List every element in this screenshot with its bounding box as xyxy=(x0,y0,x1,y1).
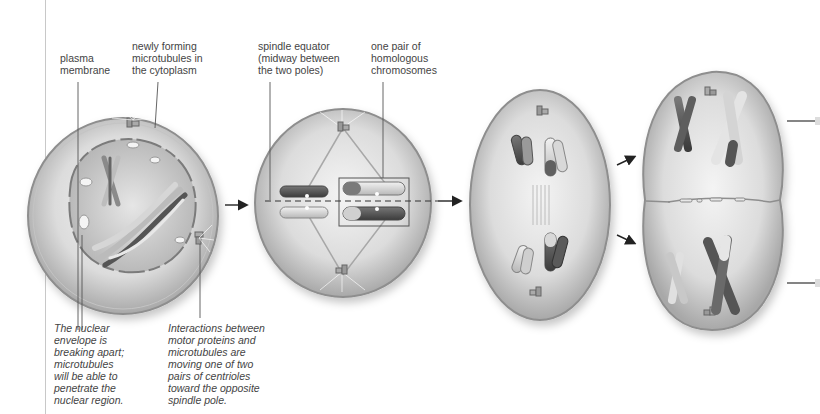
arrow-to-lower-cell xyxy=(617,235,634,243)
stage-1-cell xyxy=(28,104,218,314)
cut-off-label-lower xyxy=(815,279,820,287)
stage-4-cells xyxy=(643,72,783,330)
cut-off-label-upper xyxy=(815,117,820,125)
caption-nuclear-envelope: The nuclear envelope is breaking apart; … xyxy=(54,322,124,406)
caption-motor-proteins: Interactions between motor proteins and … xyxy=(168,322,265,406)
label-spindle-equator: spindle equator (midway between the two … xyxy=(258,40,340,76)
label-homologous-chromosome-pair: one pair of homologous chromosomes xyxy=(371,40,437,76)
label-plasma-membrane: plasma membrane xyxy=(60,52,110,76)
stage-2-cell xyxy=(255,109,438,297)
arrow-to-upper-cell xyxy=(617,157,634,165)
stage-3-cell xyxy=(470,90,610,320)
label-newly-forming-microtubules: newly forming microtubules in the cytopl… xyxy=(132,40,203,76)
